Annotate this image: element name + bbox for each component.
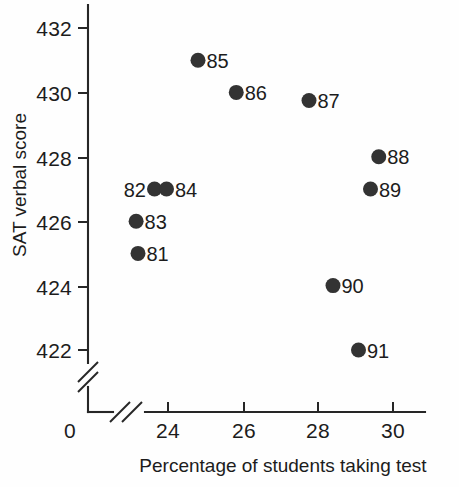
data-point[interactable]: 88	[371, 146, 409, 168]
y-axis-title: SAT verbal score	[9, 113, 30, 257]
x-tick-marks	[168, 402, 393, 412]
data-point[interactable]: 82	[124, 179, 162, 201]
x-axis-break-icon	[110, 402, 142, 422]
x-tick-label-26: 26	[232, 419, 256, 442]
data-point-label: 81	[147, 243, 169, 265]
chart-canvas: 432 430 428 426 424 422 0 24 26 28 30 SA…	[0, 0, 459, 487]
data-points-layer: 8182838485868788899091	[124, 50, 410, 362]
x-tick-label-28: 28	[306, 419, 330, 442]
data-point-label: 83	[145, 211, 167, 233]
data-point[interactable]: 91	[351, 340, 389, 362]
y-tick-label-422: 422	[36, 339, 72, 362]
data-point[interactable]: 87	[302, 90, 340, 112]
data-point-label: 89	[379, 179, 401, 201]
y-tick-label-426: 426	[36, 211, 72, 234]
data-point[interactable]: 89	[363, 179, 401, 201]
scatter-chart: 432 430 428 426 424 422 0 24 26 28 30 SA…	[0, 0, 459, 487]
x-tick-label-0: 0	[64, 419, 76, 442]
data-point-marker[interactable]	[351, 343, 366, 358]
y-tick-label-430: 430	[36, 82, 72, 105]
y-tick-label-432: 432	[36, 17, 72, 40]
data-point[interactable]: 83	[129, 211, 167, 233]
data-point-marker[interactable]	[371, 149, 386, 164]
y-tick-label-428: 428	[36, 147, 72, 170]
data-point-marker[interactable]	[363, 182, 378, 197]
data-point-marker[interactable]	[131, 246, 146, 261]
data-point-marker[interactable]	[191, 53, 206, 68]
x-tick-label-30: 30	[381, 419, 405, 442]
data-point-label: 91	[367, 340, 389, 362]
data-point[interactable]: 86	[229, 82, 267, 104]
data-point-marker[interactable]	[326, 278, 341, 293]
data-point-marker[interactable]	[159, 182, 174, 197]
data-point-marker[interactable]	[129, 214, 144, 229]
data-point-label: 82	[124, 179, 146, 201]
data-point[interactable]: 84	[159, 179, 197, 201]
x-axis-title: Percentage of students taking test	[139, 455, 427, 476]
y-tick-marks	[78, 28, 88, 350]
data-point-label: 90	[342, 275, 364, 297]
data-point-label: 84	[175, 179, 197, 201]
data-point[interactable]: 85	[191, 50, 229, 72]
data-point-label: 86	[245, 82, 267, 104]
data-point[interactable]: 90	[326, 275, 364, 297]
data-point-label: 85	[207, 50, 229, 72]
data-point-label: 87	[318, 90, 340, 112]
data-point[interactable]: 81	[131, 243, 169, 265]
data-point-marker[interactable]	[229, 85, 244, 100]
data-point-marker[interactable]	[302, 93, 317, 108]
x-tick-label-24: 24	[156, 419, 180, 442]
data-point-label: 88	[387, 146, 409, 168]
y-tick-label-424: 424	[36, 276, 72, 299]
